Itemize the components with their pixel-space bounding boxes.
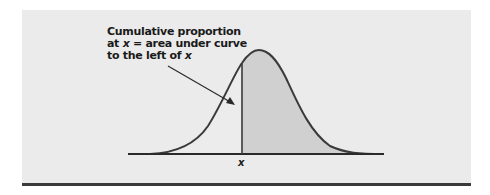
annotation-arrow xyxy=(168,66,232,103)
annotation-line-3: to the left of x xyxy=(107,50,247,62)
cumulative-proportion-annotation: Cumulative proportion at x = area under … xyxy=(107,26,247,62)
right-region-area xyxy=(242,50,383,154)
x-axis-label: x xyxy=(238,157,244,168)
bottom-rule xyxy=(22,183,471,186)
variable-x: x xyxy=(185,49,192,62)
left-region-area xyxy=(128,63,242,154)
annotation-text: to the left of xyxy=(107,49,185,62)
